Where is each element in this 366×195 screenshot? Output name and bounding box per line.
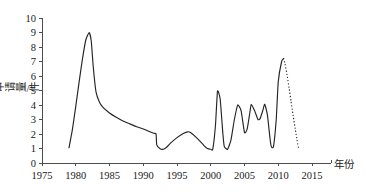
y-tick-label: 0 bbox=[31, 158, 36, 169]
x-tick-label: 1995 bbox=[167, 170, 188, 181]
y-tick-label: 4 bbox=[31, 100, 37, 111]
y-tick-label: 10 bbox=[26, 13, 37, 24]
x-tick-label: 2010 bbox=[268, 170, 289, 181]
x-axis: 197519801985199019952000200520102015 bbox=[32, 160, 332, 181]
x-tick-label: 1980 bbox=[65, 170, 86, 181]
y-tick-label: 8 bbox=[31, 42, 36, 53]
y-axis-title: 申请量/件 bbox=[0, 83, 40, 94]
x-axis-tick-labels: 197519801985199019952000200520102015 bbox=[32, 170, 323, 181]
x-tick-label: 1985 bbox=[99, 170, 120, 181]
y-tick-label: 6 bbox=[31, 71, 36, 82]
x-tick-label: 2000 bbox=[200, 170, 221, 181]
y-tick-label: 9 bbox=[31, 27, 36, 38]
y-tick-label: 2 bbox=[31, 129, 36, 140]
chart-background bbox=[0, 0, 366, 195]
x-tick-label: 2015 bbox=[302, 170, 323, 181]
chart-canvas: 012345678910 197519801985199019952000200… bbox=[0, 0, 366, 195]
x-tick-label: 1975 bbox=[32, 170, 53, 181]
y-tick-label: 7 bbox=[31, 56, 36, 67]
x-tick-label: 1990 bbox=[133, 170, 154, 181]
x-axis-title: 年份 bbox=[334, 158, 355, 170]
y-tick-label: 1 bbox=[31, 143, 36, 154]
x-tick-label: 2005 bbox=[234, 170, 255, 181]
y-tick-label: 3 bbox=[31, 114, 36, 125]
line-chart: 012345678910 197519801985199019952000200… bbox=[0, 0, 366, 195]
